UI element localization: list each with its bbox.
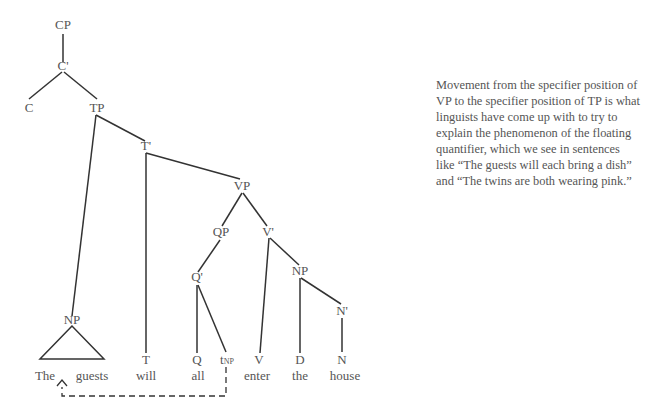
edge-cbar-tp — [64, 72, 97, 99]
node-vp: VP — [234, 178, 251, 193]
node-q-bar: Q' — [191, 269, 203, 284]
node-n: N — [337, 352, 347, 367]
node-q: Q — [192, 352, 202, 367]
arrowhead-icon — [57, 380, 67, 386]
node-t: T — [142, 352, 150, 367]
edge-tp-np — [72, 115, 96, 316]
edge-qbar-trace — [198, 285, 226, 352]
edge-np-nbar — [301, 278, 341, 304]
node-np-subject: NP — [64, 312, 81, 327]
node-c-bar: C' — [57, 58, 68, 73]
node-trace: tNP — [220, 352, 234, 367]
edge-tp-tbar — [96, 115, 145, 141]
word-house: house — [330, 368, 361, 383]
word-guests: guests — [76, 368, 109, 383]
edge-qp-qbar — [198, 240, 220, 272]
syntax-tree: CP C' C TP T' VP QP V' Q' NP N' NP T Q t… — [0, 0, 645, 416]
word-all: all — [192, 368, 205, 383]
edge-cbar-c — [29, 72, 62, 99]
node-t-bar: T' — [141, 138, 151, 153]
word-the-subject: The — [35, 368, 55, 383]
node-tp: TP — [89, 100, 104, 115]
edge-vbar-v — [260, 238, 269, 353]
node-v-bar: V' — [262, 224, 274, 239]
node-c: C — [25, 100, 34, 115]
node-cp: CP — [55, 17, 71, 32]
node-v: V — [254, 352, 264, 367]
word-the-object: the — [292, 368, 308, 383]
np-triangle — [40, 326, 104, 359]
node-np-object: NP — [292, 263, 309, 278]
edge-tbar-vp — [146, 153, 240, 179]
word-enter: enter — [244, 368, 271, 383]
caption-text: Movement from the specifier position of … — [436, 77, 641, 189]
edge-vbar-np — [270, 238, 299, 265]
edge-vp-qp — [222, 193, 242, 226]
word-will: will — [136, 368, 157, 383]
edge-vp-vbar — [243, 193, 267, 226]
node-n-bar: N' — [336, 303, 348, 318]
tree-edges — [29, 34, 342, 359]
node-qp: QP — [213, 224, 230, 239]
trace-subscript: NP — [224, 357, 235, 366]
node-d: D — [295, 352, 304, 367]
tree-words: The guests will all enter the house — [35, 368, 360, 383]
